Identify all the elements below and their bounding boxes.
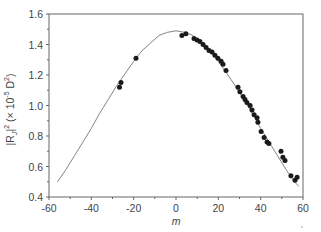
data-point	[134, 56, 139, 61]
data-point	[248, 103, 253, 108]
stray-mark	[301, 226, 303, 228]
x-tick-label: -20	[126, 202, 141, 214]
y-tick-label: 1.4	[28, 39, 43, 51]
y-axis-label: |RJ|2 (× 10-5 D2)	[3, 74, 19, 146]
data-point	[283, 158, 288, 163]
data-point	[237, 89, 242, 94]
data-point	[255, 115, 260, 120]
data-point	[224, 68, 229, 73]
y-tick-label: 0.8	[28, 130, 43, 142]
x-tick-label: -40	[84, 202, 99, 214]
x-tick-label: -60	[41, 202, 56, 214]
plot-frame	[49, 14, 303, 197]
data-point	[262, 135, 267, 140]
data-point	[295, 175, 300, 180]
data-point	[255, 120, 260, 125]
data-point	[259, 129, 264, 134]
data-point	[119, 80, 124, 85]
x-tick-label: 60	[297, 202, 309, 214]
x-tick-label: 0	[173, 202, 179, 214]
data-point	[279, 149, 284, 154]
x-tick-label: 20	[212, 202, 224, 214]
data-point	[288, 173, 293, 178]
fit-curve	[58, 31, 299, 187]
y-tick-label: 0.6	[28, 161, 43, 173]
data-points	[117, 31, 300, 182]
x-axis-label: m	[172, 215, 181, 227]
data-point	[266, 141, 271, 146]
data-point	[117, 85, 122, 90]
y-tick-label: 0.4	[28, 191, 43, 203]
curve-line	[58, 31, 299, 187]
data-point	[236, 85, 241, 90]
y-tick-label: 1.6	[28, 8, 43, 20]
y-tick-label: 1.2	[28, 69, 43, 81]
y-tick-label: 1.0	[28, 100, 43, 112]
data-point	[221, 62, 226, 67]
y-axis: 0.40.60.81.01.21.41.6	[28, 8, 49, 203]
chart: -60-40-200204060 0.40.60.81.01.21.41.6 m…	[0, 0, 321, 232]
data-point	[183, 31, 188, 36]
x-axis: -60-40-200204060	[41, 197, 309, 214]
data-point	[250, 108, 255, 113]
x-tick-label: 40	[255, 202, 267, 214]
